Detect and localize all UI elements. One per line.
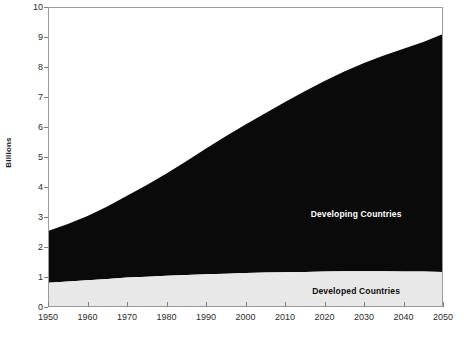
area-developing-countries [48, 34, 443, 283]
population-projection-chart: Billions 012345678910 195019601970198019… [0, 0, 468, 343]
series-label-developing-countries: Developing Countries [311, 209, 402, 219]
series-label-developed-countries: Developed Countries [312, 286, 400, 296]
